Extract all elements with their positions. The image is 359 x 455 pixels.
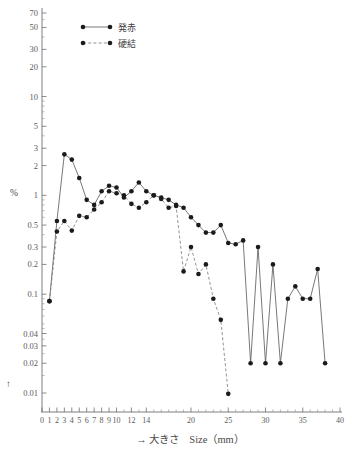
data-point bbox=[144, 189, 149, 194]
data-point bbox=[107, 183, 112, 188]
x-tick-label: 3 bbox=[62, 416, 66, 425]
y-tick-label: 0.1 bbox=[27, 289, 38, 299]
data-point bbox=[166, 205, 171, 210]
y-tick-label: 0.3 bbox=[27, 242, 38, 252]
data-point bbox=[181, 205, 186, 210]
data-point bbox=[77, 176, 82, 181]
x-tick-label: 8 bbox=[100, 416, 104, 425]
x-axis-title: → 大きさ Size（mm） bbox=[136, 433, 244, 445]
x-tick-label: 35 bbox=[299, 416, 307, 425]
data-point bbox=[92, 207, 97, 212]
y-tick-label: 1 bbox=[34, 190, 38, 200]
data-point bbox=[84, 198, 89, 203]
x-tick-label: 7 bbox=[92, 416, 96, 425]
data-point bbox=[211, 296, 216, 301]
data-point bbox=[211, 230, 216, 235]
x-tick-label: 12 bbox=[127, 416, 135, 425]
series-line-2 bbox=[49, 191, 228, 394]
y-tick-label: 0.01 bbox=[23, 388, 38, 398]
data-point bbox=[241, 238, 246, 243]
data-point bbox=[47, 299, 52, 304]
data-point bbox=[308, 296, 313, 301]
data-point bbox=[278, 361, 283, 366]
data-point bbox=[55, 229, 60, 234]
data-point bbox=[196, 272, 201, 277]
data-point bbox=[263, 361, 268, 366]
data-point bbox=[114, 185, 119, 190]
legend-marker-start bbox=[81, 25, 86, 30]
data-point bbox=[293, 284, 298, 289]
data-point bbox=[137, 180, 142, 185]
x-tick-label: 25 bbox=[224, 416, 232, 425]
data-point bbox=[166, 198, 171, 203]
x-tick-label: 2 bbox=[55, 416, 59, 425]
data-point bbox=[55, 219, 60, 224]
y-axis-direction-arrow: ↑ bbox=[6, 379, 11, 389]
data-point bbox=[107, 189, 112, 194]
y-tick-label: 0.02 bbox=[23, 358, 38, 368]
y-tick-label: 5 bbox=[34, 121, 38, 131]
data-point bbox=[226, 392, 231, 397]
data-point bbox=[315, 267, 320, 272]
data-point bbox=[248, 361, 253, 366]
y-tick-label: 0.2 bbox=[27, 259, 38, 269]
data-point bbox=[62, 152, 67, 157]
legend-marker-start bbox=[81, 41, 86, 46]
chart-root: 705030201053210.50.30.20.10.040.030.020.… bbox=[0, 0, 359, 455]
x-tick-label: 9 bbox=[107, 416, 111, 425]
data-point bbox=[62, 219, 67, 224]
x-tick-label: 10 bbox=[113, 416, 121, 425]
data-point bbox=[84, 215, 89, 220]
data-point bbox=[122, 193, 127, 198]
x-tick-label: 40 bbox=[336, 416, 344, 425]
data-point bbox=[77, 214, 82, 219]
data-point bbox=[151, 193, 156, 198]
y-tick-label: 20 bbox=[30, 62, 39, 72]
data-point bbox=[137, 205, 142, 210]
data-point bbox=[189, 245, 194, 250]
data-point bbox=[204, 262, 209, 267]
x-tick-label: 14 bbox=[142, 416, 150, 425]
data-point bbox=[271, 262, 276, 267]
data-point bbox=[144, 200, 149, 205]
x-tick-label: 6 bbox=[85, 416, 89, 425]
x-tick-label: 20 bbox=[187, 416, 195, 425]
data-point bbox=[204, 230, 209, 235]
data-point bbox=[323, 361, 328, 366]
x-tick-label: 0 bbox=[40, 416, 44, 425]
log-scatter-line-chart: 705030201053210.50.30.20.10.040.030.020.… bbox=[0, 0, 359, 455]
data-point bbox=[219, 318, 224, 323]
y-tick-label: 2 bbox=[34, 161, 38, 171]
x-tick-label: 30 bbox=[262, 416, 270, 425]
data-point bbox=[226, 241, 231, 246]
data-point bbox=[70, 157, 75, 162]
legend-marker-end bbox=[108, 41, 113, 46]
data-point bbox=[129, 202, 134, 207]
legend-label-1[interactable]: 発赤 bbox=[118, 22, 136, 33]
y-tick-label: 0.03 bbox=[23, 341, 38, 351]
y-tick-label: 30 bbox=[30, 44, 39, 54]
data-point bbox=[286, 296, 291, 301]
x-tick-label: 4 bbox=[70, 416, 74, 425]
y-tick-label: 3 bbox=[34, 143, 38, 153]
data-point bbox=[99, 189, 104, 194]
data-point bbox=[174, 204, 179, 209]
legend-marker-end bbox=[108, 25, 113, 30]
x-tick-label: 1 bbox=[47, 416, 51, 425]
y-tick-label: 10 bbox=[30, 92, 39, 102]
data-point bbox=[181, 269, 186, 274]
data-point bbox=[70, 228, 75, 233]
y-axis-unit-label: % bbox=[10, 188, 18, 198]
data-point bbox=[219, 223, 224, 228]
data-point bbox=[300, 296, 305, 301]
y-tick-label: 50 bbox=[30, 22, 39, 32]
y-tick-label: 0.04 bbox=[23, 329, 39, 339]
data-point bbox=[233, 242, 238, 247]
x-tick-label: 5 bbox=[77, 416, 81, 425]
data-point bbox=[114, 191, 119, 196]
data-point bbox=[256, 245, 261, 250]
data-point bbox=[129, 189, 134, 194]
data-point bbox=[196, 223, 201, 228]
legend-label-2[interactable]: 硬結 bbox=[118, 38, 136, 49]
data-point bbox=[159, 197, 164, 202]
